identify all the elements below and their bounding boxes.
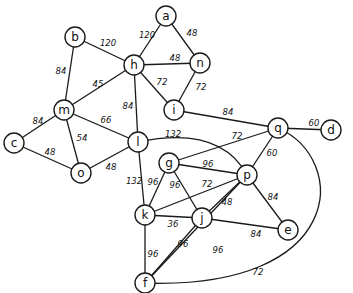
edge-weight-m-c: 84 [33, 116, 44, 126]
node-label: g [165, 156, 173, 170]
node-p: p [237, 165, 257, 185]
node-label: i [172, 103, 175, 117]
node-d: d [321, 120, 341, 140]
node-m: m [54, 100, 74, 120]
node-b: b [65, 27, 85, 47]
node-label: q [274, 121, 282, 135]
node-o: o [71, 163, 91, 183]
edge-weight-c-o: 48 [45, 147, 56, 157]
edge-weight-b-m: 84 [56, 66, 67, 76]
edge-weight-b-h: 120 [100, 38, 116, 48]
edge-weight-j-e: 84 [251, 229, 262, 239]
node-label: m [58, 103, 70, 117]
node-k: k [135, 205, 155, 225]
node-label: k [142, 208, 149, 222]
node-label: o [77, 166, 84, 180]
node-f: f [135, 273, 155, 293]
edge-weight-p-e: 84 [268, 192, 279, 202]
node-i: i [164, 100, 184, 120]
edge-weight-k-p: 72 [202, 179, 213, 189]
edge-weight-h-n: 48 [170, 53, 181, 63]
edge-p-f [145, 175, 247, 283]
edge-weight-l-k: 132 [126, 176, 142, 186]
node-l: l [128, 132, 148, 152]
edge-weight-a-h: 120 [139, 30, 155, 40]
edge-weight-i-q: 84 [223, 107, 234, 117]
node-label: h [130, 58, 138, 72]
edge-weight-p-f: 96 [213, 245, 224, 255]
edge-weight-m-l: 66 [101, 115, 112, 125]
edge-weight-h-i: 72 [157, 77, 168, 87]
edge-weight-k-j: 36 [168, 219, 179, 229]
edge-weight-n-i: 72 [196, 82, 207, 92]
edge-weight-q-g: 72 [232, 131, 243, 141]
node-label: a [162, 9, 169, 23]
edge-weight-q-p: 60 [267, 148, 278, 158]
edge-weight-k-f: 96 [148, 249, 159, 259]
edge-weight-q-f: 72 [253, 267, 264, 277]
edge-weight-m-o: 54 [77, 133, 88, 143]
weighted-graph-diagram: 1204848727212084458466845448481321328460… [0, 0, 353, 293]
node-label: e [284, 223, 291, 237]
node-label: n [196, 56, 204, 70]
node-h: h [124, 55, 144, 75]
edge-weight-j-p: 48 [222, 197, 233, 207]
node-label: c [11, 136, 18, 150]
node-label: p [243, 168, 251, 182]
edge-q-g [169, 128, 278, 163]
edge-weight-q-d: 60 [309, 118, 320, 128]
node-q: q [268, 118, 288, 138]
node-label: l [136, 135, 139, 149]
edge-weight-g-p: 96 [203, 159, 214, 169]
node-n: n [190, 53, 210, 73]
edge-weight-g-k: 96 [148, 177, 159, 187]
edge-weight-l-p: 132 [165, 129, 181, 139]
edge-weight-m-h: 45 [93, 79, 104, 89]
edge-q-f [145, 128, 320, 283]
node-label: b [71, 30, 79, 44]
node-a: a [156, 6, 176, 26]
node-j: j [192, 208, 212, 228]
edge-weight-o-l: 48 [106, 162, 117, 172]
edge-weight-a-n: 48 [187, 28, 198, 38]
edge-weight-j-f: 96 [178, 239, 189, 249]
edge-h-l [134, 65, 138, 142]
edge-j-e [202, 218, 288, 230]
edge-weight-g-j: 96 [170, 180, 181, 190]
node-label: d [327, 123, 335, 137]
edge-weight-h-l: 84 [123, 101, 134, 111]
node-g: g [159, 153, 179, 173]
node-c: c [4, 133, 24, 153]
node-label: j [199, 211, 203, 225]
node-e: e [278, 220, 298, 240]
